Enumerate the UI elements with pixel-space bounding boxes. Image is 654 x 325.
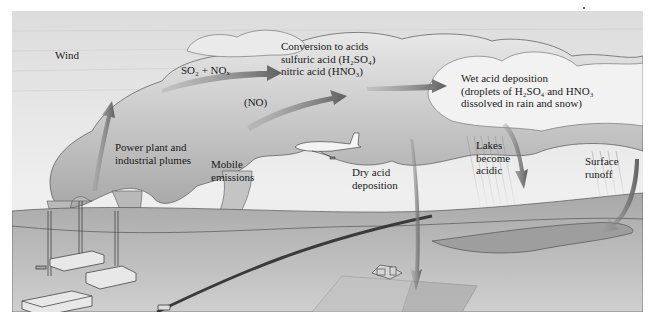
power-plant-line2: industrial plumes <box>115 154 191 167</box>
lakes-line1: Lakes <box>476 139 510 152</box>
power-plant-line1: Power plant and <box>115 141 191 154</box>
wind-label: Wind <box>55 49 79 62</box>
runoff-line2: runoff <box>585 168 619 181</box>
so2-nox-label: SO₂ + NOₓ <box>181 64 230 77</box>
no-label: (NO) <box>244 96 267 109</box>
wet-deposition-line3: dissolved in rain and snow) <box>461 97 594 110</box>
wet-deposition-line1: Wet acid deposition <box>461 72 594 85</box>
dry-deposition-line1: Dry acid <box>352 166 398 179</box>
lakes-line2: become <box>476 152 510 165</box>
dry-deposition-line2: deposition <box>352 179 398 192</box>
power-plant-label: Power plant and industrial plumes <box>115 141 191 166</box>
lakes-line3: acidic <box>476 164 510 177</box>
wet-deposition-line2: (droplets of H₂SO₄ and HNO₃ <box>461 85 594 98</box>
mobile-line1: Mobile <box>211 158 254 171</box>
acid-deposition-diagram: Wind SO₂ + NOₓ Conversion to acids sulfu… <box>12 11 643 312</box>
conversion-label: Conversion to acids sulfuric acid (H₂SO₄… <box>281 40 375 78</box>
dry-deposition-label: Dry acid deposition <box>352 166 398 191</box>
mobile-emissions-label: Mobile emissions <box>211 158 254 183</box>
runoff-line1: Surface <box>585 155 619 168</box>
conversion-line2: sulfuric acid (H₂SO₄) <box>281 53 375 66</box>
so2-nox-text: SO₂ + NOₓ <box>181 64 230 76</box>
stray-mark <box>583 7 585 9</box>
mobile-line2: emissions <box>211 171 254 184</box>
surface-runoff-label: Surface runoff <box>585 155 619 180</box>
conversion-line1: Conversion to acids <box>281 40 375 53</box>
car-icon <box>158 305 170 310</box>
wet-deposition-label: Wet acid deposition (droplets of H₂SO₄ a… <box>461 72 594 110</box>
conversion-line3: nitric acid (HNO₃) <box>281 65 375 78</box>
lakes-acidic-label: Lakes become acidic <box>476 139 510 177</box>
